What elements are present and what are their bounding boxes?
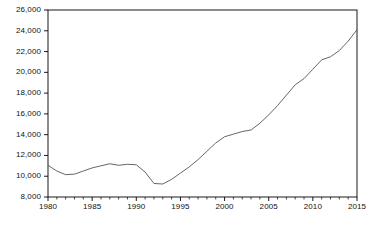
chart-container: 8,00010,00012,00014,00016,00018,00020,00… (0, 0, 369, 227)
y-tick-label: 20,000 (16, 68, 41, 76)
y-tick-label: 22,000 (16, 48, 41, 56)
x-axis-major-ticks (48, 197, 357, 201)
x-tick-label: 1990 (121, 203, 151, 211)
y-tick-label: 16,000 (16, 110, 41, 118)
x-tick-label: 1980 (33, 203, 63, 211)
y-tick-label: 18,000 (16, 89, 41, 97)
y-tick-label: 8,000 (20, 193, 41, 201)
chart-plot-area (0, 0, 369, 227)
plot-frame (48, 10, 357, 197)
x-tick-label: 1985 (77, 203, 107, 211)
plot-frame-rect (48, 10, 357, 197)
x-tick-label: 2000 (210, 203, 240, 211)
x-tick-label: 2005 (254, 203, 284, 211)
x-tick-label: 1995 (165, 203, 195, 211)
y-axis-ticks (44, 10, 48, 197)
x-tick-label: 2015 (342, 203, 369, 211)
y-tick-label: 14,000 (16, 131, 41, 139)
x-tick-label: 2010 (298, 203, 328, 211)
y-tick-label: 10,000 (16, 172, 41, 180)
y-tick-label: 12,000 (16, 151, 41, 159)
y-tick-label: 26,000 (16, 6, 41, 14)
y-tick-label: 24,000 (16, 27, 41, 35)
